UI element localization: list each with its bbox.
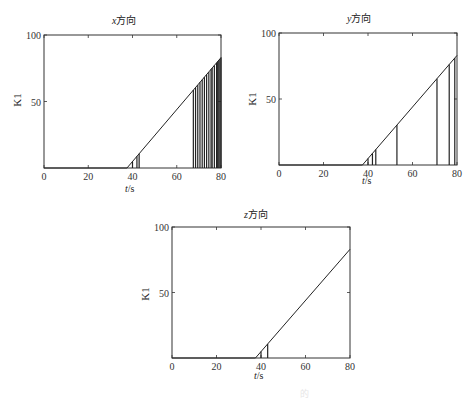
x-tick-label: 20 [212,361,222,372]
figure-caption: 的 [300,387,309,400]
x-tick-label: 0 [170,361,175,372]
axes-frame [172,227,350,358]
y-tick-label: 100 [154,222,169,233]
y-axis-label: K1 [139,287,151,300]
x-axis-label: t/s [254,370,263,381]
chart-z-direction: z方向 02040608050100 K1 t/s [0,0,473,400]
y-tick-label: 50 [159,288,169,299]
x-tick-label: 60 [301,361,311,372]
x-tick-label: 80 [345,361,355,372]
k1-ramp-line [172,249,350,358]
plot-area: 02040608050100 [0,0,473,400]
